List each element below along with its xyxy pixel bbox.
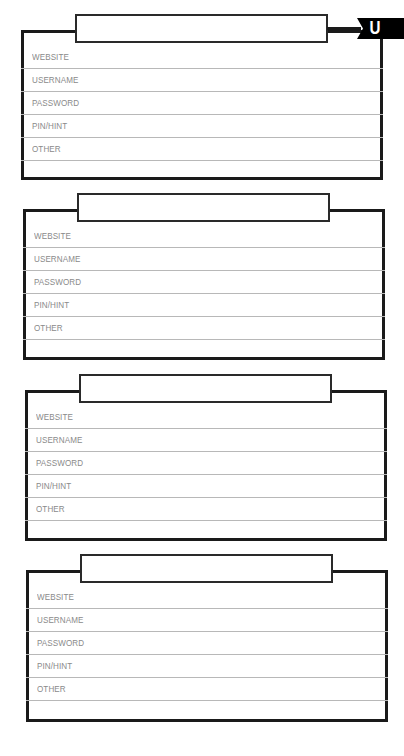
website-field[interactable] (103, 227, 379, 245)
field-row-website[interactable]: WEBSITE (26, 586, 388, 609)
field-label: OTHER (37, 683, 66, 694)
field-row-pin-hint[interactable]: PIN/HINT (23, 294, 385, 317)
field-rows: WEBSITE USERNAME PASSWORD PIN/HINT OTHER (21, 46, 383, 161)
username-field[interactable] (105, 431, 381, 449)
pin-hint-field[interactable] (106, 657, 382, 675)
field-label: PASSWORD (32, 97, 79, 108)
field-row-username[interactable]: USERNAME (21, 69, 383, 92)
username-field[interactable] (106, 611, 382, 629)
other-field[interactable] (103, 319, 379, 337)
field-label: OTHER (32, 143, 61, 154)
field-row-other[interactable]: OTHER (26, 678, 388, 701)
card-title-field[interactable] (77, 193, 330, 222)
website-field[interactable] (106, 588, 382, 606)
tab-connector-line (327, 27, 361, 30)
password-card-1: WEBSITE USERNAME PASSWORD PIN/HINT OTHER (21, 30, 383, 180)
field-label: WEBSITE (36, 411, 73, 422)
field-row-password[interactable]: PASSWORD (25, 452, 387, 475)
field-row-username[interactable]: USERNAME (25, 429, 387, 452)
username-field[interactable] (103, 250, 379, 268)
username-field[interactable] (101, 71, 377, 89)
field-label: PIN/HINT (36, 480, 71, 491)
field-label: PASSWORD (34, 276, 81, 287)
field-label: PIN/HINT (32, 120, 67, 131)
field-row-password[interactable]: PASSWORD (23, 271, 385, 294)
field-row-website[interactable]: WEBSITE (21, 46, 383, 69)
password-card-2: WEBSITE USERNAME PASSWORD PIN/HINT OTHER (23, 209, 385, 360)
other-field[interactable] (105, 500, 381, 518)
field-label: OTHER (36, 503, 65, 514)
field-label: USERNAME (32, 74, 78, 85)
other-field[interactable] (106, 680, 382, 698)
index-tab-u[interactable]: U (357, 18, 404, 39)
password-field[interactable] (103, 273, 379, 291)
index-letter: U (369, 17, 382, 39)
field-label: PIN/HINT (37, 660, 72, 671)
field-row-pin-hint[interactable]: PIN/HINT (26, 655, 388, 678)
website-field[interactable] (101, 48, 377, 66)
password-field[interactable] (105, 454, 381, 472)
field-row-username[interactable]: USERNAME (23, 248, 385, 271)
website-field[interactable] (105, 408, 381, 426)
field-label: USERNAME (34, 253, 80, 264)
password-field[interactable] (106, 634, 382, 652)
pin-hint-field[interactable] (101, 117, 377, 135)
field-row-password[interactable]: PASSWORD (21, 92, 383, 115)
password-field[interactable] (101, 94, 377, 112)
field-rows: WEBSITE USERNAME PASSWORD PIN/HINT OTHER (23, 225, 385, 340)
password-card-3: WEBSITE USERNAME PASSWORD PIN/HINT OTHER (25, 390, 387, 541)
other-field[interactable] (101, 140, 377, 158)
field-label: USERNAME (36, 434, 82, 445)
field-row-pin-hint[interactable]: PIN/HINT (25, 475, 387, 498)
field-label: PIN/HINT (34, 299, 69, 310)
field-row-pin-hint[interactable]: PIN/HINT (21, 115, 383, 138)
field-label: WEBSITE (32, 51, 69, 62)
field-row-password[interactable]: PASSWORD (26, 632, 388, 655)
field-label: PASSWORD (36, 457, 83, 468)
field-row-username[interactable]: USERNAME (26, 609, 388, 632)
field-rows: WEBSITE USERNAME PASSWORD PIN/HINT OTHER (25, 406, 387, 521)
card-title-field[interactable] (79, 374, 332, 403)
password-card-4: WEBSITE USERNAME PASSWORD PIN/HINT OTHER (26, 570, 388, 722)
field-row-other[interactable]: OTHER (25, 498, 387, 521)
field-rows: WEBSITE USERNAME PASSWORD PIN/HINT OTHER (26, 586, 388, 701)
field-label: USERNAME (37, 614, 83, 625)
field-row-website[interactable]: WEBSITE (23, 225, 385, 248)
card-title-field[interactable] (75, 14, 328, 43)
field-row-website[interactable]: WEBSITE (25, 406, 387, 429)
field-label: WEBSITE (34, 230, 71, 241)
field-label: OTHER (34, 322, 63, 333)
pin-hint-field[interactable] (103, 296, 379, 314)
field-row-other[interactable]: OTHER (21, 138, 383, 161)
card-title-field[interactable] (80, 554, 333, 583)
field-label: PASSWORD (37, 637, 84, 648)
pin-hint-field[interactable] (105, 477, 381, 495)
field-label: WEBSITE (37, 591, 74, 602)
field-row-other[interactable]: OTHER (23, 317, 385, 340)
